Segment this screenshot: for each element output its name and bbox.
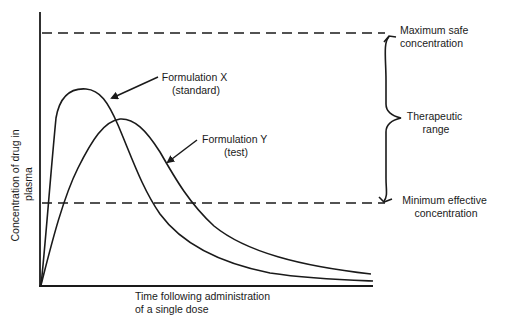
x-axis-label: Time following administration of a singl… — [135, 290, 273, 315]
y-axis-label: Concentration of drug in plasma — [9, 127, 34, 242]
label-formulation-y: Formulation Y (test) — [202, 133, 270, 158]
label-min-effective: Minimum effective concentration — [402, 194, 489, 219]
curve-formulation-x — [41, 89, 373, 285]
therapeutic-range-brace — [384, 37, 401, 201]
label-max-safe: Maximum safe concentration — [400, 24, 471, 49]
arrow-formulation-y — [168, 140, 197, 162]
pharmacokinetic-diagram: Formulation X (standard) Formulation Y (… — [0, 0, 505, 322]
label-therapeutic-range: Therapeutic range — [407, 110, 465, 135]
arrow-formulation-x — [112, 77, 158, 98]
label-formulation-x: Formulation X (standard) — [162, 71, 230, 96]
